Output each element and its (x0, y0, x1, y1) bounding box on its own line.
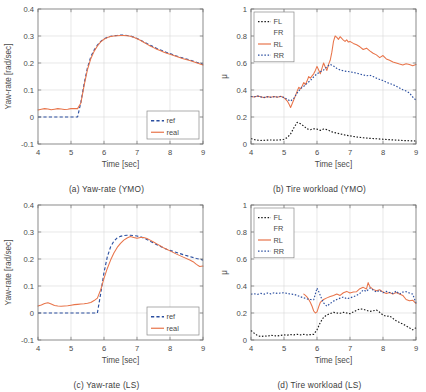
x-tick-label: 6 (102, 148, 106, 157)
y-tick-label: 0.3 (23, 228, 34, 237)
legend-label-fl: FL (274, 17, 283, 26)
x-axis-title: Time [sec] (102, 356, 139, 365)
y-tick-label: 0.6 (236, 59, 247, 68)
y-tick-label: 0.4 (236, 86, 247, 95)
panel-d-caption: (d) Tire workload (LS) (213, 380, 426, 390)
y-tick-label: 0.1 (23, 86, 34, 95)
panel-b-tire-workload-ymo: 45678900.20.40.60.81Time [sec]μFLFRRLRR … (213, 0, 426, 196)
y-tick-label: 0.4 (23, 5, 34, 14)
x-tick-label: 6 (315, 344, 319, 353)
panel-c-yaw-rate-ls: 456789-0.100.10.20.30.4Time [sec]Yaw-rat… (0, 196, 213, 392)
x-tick-label: 4 (36, 148, 40, 157)
legend-label-fr: FR (274, 28, 284, 37)
x-tick-label: 8 (168, 148, 172, 157)
y-tick-label: 0 (30, 309, 34, 318)
x-tick-label: 9 (201, 344, 205, 353)
x-axis-title: Time [sec] (102, 160, 139, 169)
series-line-rr (251, 288, 416, 306)
panel-c-caption: (c) Yaw-rate (LS) (0, 380, 213, 390)
y-tick-label: 0.2 (236, 309, 247, 318)
x-tick-label: 9 (414, 148, 418, 157)
y-tick-label: 0.4 (23, 201, 34, 210)
x-tick-label: 9 (201, 148, 205, 157)
x-tick-label: 9 (414, 344, 418, 353)
y-tick-label: 0 (243, 336, 247, 345)
x-tick-label: 5 (282, 344, 286, 353)
legend-label-rl: RL (274, 236, 283, 245)
legend-label-real: real (167, 128, 180, 137)
legend-label-fr: FR (274, 224, 284, 233)
legend-label-ref: ref (167, 312, 177, 321)
y-tick-label: 0.4 (236, 282, 247, 291)
legend-label-real: real (167, 324, 180, 333)
x-axis-title: Time [sec] (315, 160, 352, 169)
panel-c-plot: 456789-0.100.10.20.30.4Time [sec]Yaw-rat… (0, 196, 213, 374)
y-tick-label: 0.2 (23, 59, 34, 68)
panel-b-plot: 45678900.20.40.60.81Time [sec]μFLFRRLRR (213, 0, 426, 178)
x-tick-label: 6 (102, 344, 106, 353)
y-tick-label: 0.8 (236, 228, 247, 237)
y-tick-label: 0 (243, 140, 247, 149)
legend-label-ref: ref (167, 116, 177, 125)
x-tick-label: 7 (135, 344, 139, 353)
series-line-ref (38, 235, 203, 313)
panel-b-caption: (b) Tire workload (YMO) (213, 184, 426, 194)
x-tick-label: 8 (381, 148, 385, 157)
x-tick-label: 7 (135, 148, 139, 157)
x-tick-label: 5 (69, 148, 73, 157)
series-line-ref (38, 35, 203, 117)
panel-a-plot: 456789-0.100.10.20.30.4Time [sec]Yaw-rat… (0, 0, 213, 178)
y-tick-label: 0.6 (236, 255, 247, 264)
y-tick-label: 0.2 (23, 255, 34, 264)
legend-label-fl: FL (274, 213, 283, 222)
series-line-real (38, 237, 203, 307)
y-tick-label: 0.8 (236, 32, 247, 41)
x-tick-label: 7 (348, 344, 352, 353)
series-line-rr (251, 64, 416, 101)
panel-d-tire-workload-ls: 45678900.20.40.60.81Time [sec]μFLFRRLRR … (213, 196, 426, 392)
x-tick-label: 8 (381, 344, 385, 353)
y-tick-label: 0.3 (23, 32, 34, 41)
legend-label-rl: RL (274, 40, 283, 49)
x-tick-label: 5 (69, 344, 73, 353)
series-line-fl (251, 122, 416, 141)
y-axis-title: μ (220, 74, 229, 79)
x-tick-label: 7 (348, 148, 352, 157)
y-tick-label: -0.1 (21, 140, 34, 149)
y-axis-title: Yaw-rate [rad/sec] (4, 44, 13, 110)
x-tick-label: 6 (315, 148, 319, 157)
y-tick-label: 0.2 (236, 113, 247, 122)
y-tick-label: 0.1 (23, 282, 34, 291)
x-tick-label: 8 (168, 344, 172, 353)
x-tick-label: 5 (282, 148, 286, 157)
y-tick-label: -0.1 (21, 336, 34, 345)
panel-a-yaw-rate-ymo: 456789-0.100.10.20.30.4Time [sec]Yaw-rat… (0, 0, 213, 196)
series-line-rl (304, 283, 416, 313)
x-tick-label: 4 (249, 148, 253, 157)
y-axis-title: μ (220, 270, 229, 275)
x-axis-title: Time [sec] (315, 356, 352, 365)
panel-a-caption: (a) Yaw-rate (YMO) (0, 184, 213, 194)
y-axis-title: Yaw-rate [rad/sec] (4, 240, 13, 306)
x-tick-label: 4 (249, 344, 253, 353)
legend-label-rr: RR (274, 51, 285, 60)
y-tick-label: 0 (30, 113, 34, 122)
legend-label-rr: RR (274, 247, 285, 256)
panel-d-plot: 45678900.20.40.60.81Time [sec]μFLFRRLRR (213, 196, 426, 374)
x-tick-label: 4 (36, 344, 40, 353)
y-tick-label: 1 (243, 201, 247, 210)
series-line-real (38, 35, 203, 110)
figure-root: 456789-0.100.10.20.30.4Time [sec]Yaw-rat… (0, 0, 426, 392)
y-tick-label: 1 (243, 5, 247, 14)
